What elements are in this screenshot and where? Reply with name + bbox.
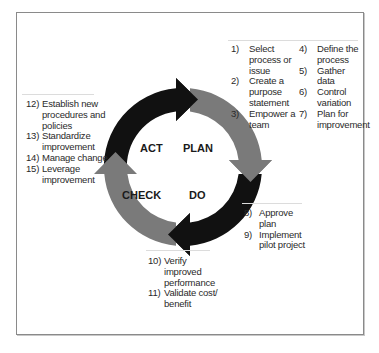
step-item: 8)Approve plan (244, 208, 310, 230)
act-steps: 12)Establish new procedures and policies… (26, 99, 108, 185)
plan-steps-right: 4)Define the process 5)Gather data 6)Con… (299, 44, 363, 130)
step-item: 15)Leverage improvement (26, 164, 108, 186)
step-item: 2)Create a purpose statement (231, 76, 297, 108)
check-steps: 10)Verify improved performance 11)Valida… (148, 256, 220, 310)
phase-label-do: DO (189, 189, 206, 201)
step-item: 13)Standardize improvement (26, 131, 108, 153)
act-separator (22, 94, 94, 95)
do-steps: 8)Approve plan 9)Implement pilot project (244, 208, 310, 251)
phase-label-check: CHECK (122, 189, 161, 201)
step-item: 7)Plan for improvement (299, 109, 363, 131)
check-separator (146, 250, 210, 251)
step-item: 3)Empower a team (231, 109, 297, 131)
step-item: 11)Validate cost/ benefit (148, 288, 220, 310)
plan-steps-left: 1)Select process or issue 2)Create a pur… (231, 44, 297, 130)
phase-label-act: ACT (140, 142, 163, 154)
step-item: 12)Establish new procedures and policies (26, 99, 108, 131)
do-separator (242, 203, 302, 204)
step-item: 6)Control variation (299, 87, 363, 109)
step-item: 4)Define the process (299, 44, 363, 66)
step-item: 9)Implement pilot project (244, 230, 310, 252)
step-item: 1)Select process or issue (231, 44, 297, 76)
step-item: 5)Gather data (299, 66, 363, 88)
plan-separator (228, 40, 358, 41)
phase-label-plan: PLAN (183, 142, 213, 154)
step-item: 10)Verify improved performance (148, 256, 220, 288)
